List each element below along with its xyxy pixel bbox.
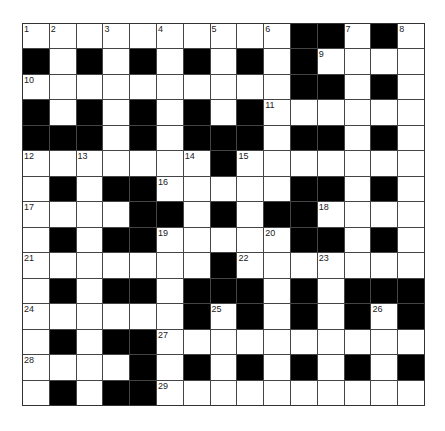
answer-cell[interactable] (264, 177, 290, 201)
answer-cell[interactable]: 10 (23, 75, 49, 99)
answer-cell[interactable] (23, 228, 49, 252)
answer-cell[interactable] (345, 228, 371, 252)
answer-cell[interactable] (291, 253, 317, 277)
answer-cell[interactable]: 28 (23, 355, 49, 379)
answer-cell[interactable] (157, 304, 183, 328)
answer-cell[interactable] (318, 279, 344, 303)
answer-cell[interactable]: 14 (184, 151, 210, 175)
answer-cell[interactable] (318, 151, 344, 175)
answer-cell[interactable] (398, 330, 424, 354)
answer-cell[interactable] (237, 24, 263, 48)
answer-cell[interactable] (103, 100, 129, 124)
answer-cell[interactable] (398, 202, 424, 226)
answer-cell[interactable]: 6 (264, 24, 290, 48)
answer-cell[interactable] (264, 151, 290, 175)
answer-cell[interactable] (103, 151, 129, 175)
answer-cell[interactable]: 12 (23, 151, 49, 175)
answer-cell[interactable] (157, 49, 183, 73)
answer-cell[interactable] (398, 381, 424, 405)
answer-cell[interactable] (264, 304, 290, 328)
answer-cell[interactable]: 8 (398, 24, 424, 48)
answer-cell[interactable] (398, 228, 424, 252)
answer-cell[interactable] (237, 228, 263, 252)
answer-cell[interactable] (157, 75, 183, 99)
answer-cell[interactable]: 13 (77, 151, 103, 175)
answer-cell[interactable] (211, 100, 237, 124)
answer-cell[interactable] (103, 304, 129, 328)
answer-cell[interactable] (130, 253, 156, 277)
answer-cell[interactable] (345, 126, 371, 150)
answer-cell[interactable] (264, 381, 290, 405)
answer-cell[interactable] (345, 202, 371, 226)
answer-cell[interactable] (398, 177, 424, 201)
answer-cell[interactable] (211, 381, 237, 405)
answer-cell[interactable] (371, 253, 397, 277)
answer-cell[interactable] (318, 381, 344, 405)
answer-cell[interactable]: 22 (237, 253, 263, 277)
answer-cell[interactable] (103, 75, 129, 99)
answer-cell[interactable] (211, 355, 237, 379)
answer-cell[interactable] (23, 279, 49, 303)
answer-cell[interactable] (77, 304, 103, 328)
answer-cell[interactable] (184, 24, 210, 48)
answer-cell[interactable] (371, 381, 397, 405)
answer-cell[interactable]: 11 (264, 100, 290, 124)
answer-cell[interactable] (103, 49, 129, 73)
answer-cell[interactable] (130, 75, 156, 99)
answer-cell[interactable]: 23 (318, 253, 344, 277)
answer-cell[interactable] (398, 253, 424, 277)
answer-cell[interactable] (398, 75, 424, 99)
answer-cell[interactable] (237, 75, 263, 99)
answer-cell[interactable] (318, 355, 344, 379)
answer-cell[interactable] (103, 253, 129, 277)
answer-cell[interactable] (184, 75, 210, 99)
answer-cell[interactable] (237, 177, 263, 201)
answer-cell[interactable] (291, 381, 317, 405)
answer-cell[interactable] (130, 304, 156, 328)
answer-cell[interactable] (211, 330, 237, 354)
answer-cell[interactable] (50, 49, 76, 73)
answer-cell[interactable]: 29 (157, 381, 183, 405)
answer-cell[interactable] (264, 126, 290, 150)
answer-cell[interactable] (184, 330, 210, 354)
answer-cell[interactable] (77, 253, 103, 277)
answer-cell[interactable] (77, 177, 103, 201)
answer-cell[interactable] (103, 126, 129, 150)
answer-cell[interactable] (77, 228, 103, 252)
answer-cell[interactable] (398, 126, 424, 150)
answer-cell[interactable] (77, 202, 103, 226)
answer-cell[interactable]: 5 (211, 24, 237, 48)
answer-cell[interactable]: 19 (157, 228, 183, 252)
answer-cell[interactable] (291, 330, 317, 354)
answer-cell[interactable] (50, 151, 76, 175)
answer-cell[interactable]: 25 (211, 304, 237, 328)
answer-cell[interactable] (237, 202, 263, 226)
answer-cell[interactable] (398, 151, 424, 175)
answer-cell[interactable] (345, 49, 371, 73)
answer-cell[interactable] (157, 355, 183, 379)
answer-cell[interactable]: 9 (318, 49, 344, 73)
answer-cell[interactable] (50, 100, 76, 124)
answer-cell[interactable] (345, 100, 371, 124)
answer-cell[interactable]: 26 (371, 304, 397, 328)
answer-cell[interactable] (184, 228, 210, 252)
answer-cell[interactable] (23, 330, 49, 354)
answer-cell[interactable]: 24 (23, 304, 49, 328)
answer-cell[interactable] (345, 75, 371, 99)
answer-cell[interactable] (184, 202, 210, 226)
answer-cell[interactable] (264, 253, 290, 277)
answer-cell[interactable]: 21 (23, 253, 49, 277)
answer-cell[interactable] (157, 151, 183, 175)
answer-cell[interactable] (345, 151, 371, 175)
answer-cell[interactable]: 18 (318, 202, 344, 226)
answer-cell[interactable] (211, 228, 237, 252)
answer-cell[interactable] (211, 177, 237, 201)
answer-cell[interactable] (264, 75, 290, 99)
answer-cell[interactable] (77, 381, 103, 405)
answer-cell[interactable] (398, 100, 424, 124)
answer-cell[interactable]: 20 (264, 228, 290, 252)
answer-cell[interactable] (264, 330, 290, 354)
answer-cell[interactable]: 1 (23, 24, 49, 48)
answer-cell[interactable] (345, 381, 371, 405)
answer-cell[interactable] (371, 49, 397, 73)
